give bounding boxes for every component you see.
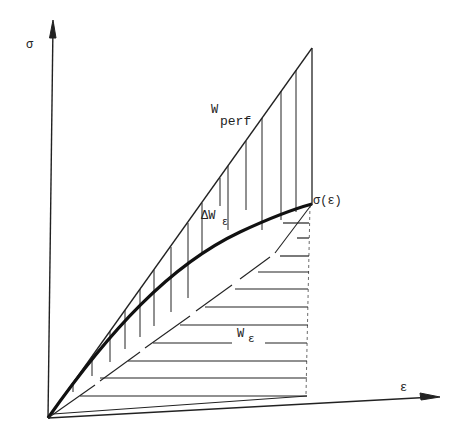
w-perf-subscript: perf	[220, 114, 251, 129]
w-eps-hatching	[53, 223, 309, 414]
sigma-epsilon-curve	[48, 204, 312, 418]
y-axis	[48, 24, 53, 418]
axes	[48, 20, 440, 418]
y-axis-arrowhead-icon	[50, 20, 57, 38]
x-axis-arrowhead-icon	[420, 393, 440, 400]
delta-w-subscript: ε	[222, 217, 228, 228]
w-perf-label: W	[211, 103, 219, 117]
w-eps-subscript: ε	[248, 333, 255, 345]
delta-w-label: ΔW	[201, 209, 216, 223]
right-edge-dashed	[306, 205, 310, 395]
w-eps-label: W	[237, 327, 245, 341]
curve-label: σ(ε)	[313, 194, 342, 208]
stress-strain-work-diagram: σ ε W perf ΔW ε W ε σ(ε)	[0, 0, 465, 427]
x-axis-label: ε	[400, 381, 407, 395]
chord-line	[48, 204, 312, 418]
y-axis-label: σ	[26, 38, 34, 52]
